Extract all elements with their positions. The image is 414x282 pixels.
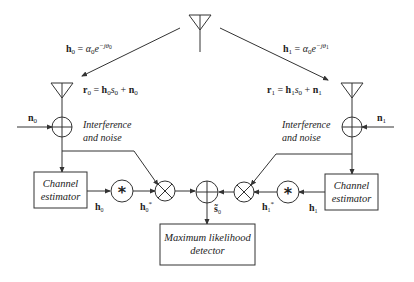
multiplier-left-icon	[155, 181, 175, 201]
channel-estimator-left: Channel estimator	[34, 172, 87, 208]
channel-estimator-right: Channel estimator	[325, 174, 378, 210]
svg-text:Channel: Channel	[43, 178, 79, 189]
svg-text:estimator: estimator	[41, 191, 82, 202]
combined-signal-label: s̃0	[214, 203, 221, 215]
multiplier-right-icon	[234, 182, 254, 202]
ml-detector-box: Maximum likelihood detector	[160, 224, 255, 265]
noise-adder-left-icon	[52, 117, 72, 137]
receive-antenna-right-icon	[341, 83, 363, 117]
conjugate-right-icon: *	[277, 181, 299, 203]
combiner-adder-icon	[196, 181, 218, 203]
diversity-receiver-diagram: h0 = α0e−jθ0 h1 = α0e−jθ1 r0 = h0s0 + n0…	[0, 0, 414, 282]
noise-adder-right-icon	[342, 117, 362, 137]
conjugate-left-icon: *	[111, 180, 133, 202]
channel-path-right	[220, 28, 328, 80]
svg-text:Maximum likelihood: Maximum likelihood	[163, 232, 251, 243]
svg-text:estimator: estimator	[332, 193, 373, 204]
svg-text:*: *	[118, 183, 127, 202]
interference-label-right-line1: Interference	[281, 119, 331, 130]
conjugate-label-h0: h0*	[140, 200, 153, 213]
interference-label-left-line1: Interference	[82, 119, 132, 130]
estimate-label-h0: h0	[95, 201, 104, 213]
interference-label-right-line2: and noise	[282, 132, 321, 143]
estimate-label-h1: h1	[309, 202, 318, 214]
noise-label-n0: n0	[28, 112, 38, 125]
transmit-antenna-icon	[189, 15, 211, 52]
interference-label-left-line2: and noise	[83, 132, 122, 143]
channel-label-h1: h1 = α0e−jθ1	[283, 42, 329, 56]
receive-antenna-left-icon	[51, 83, 73, 117]
svg-text:*: *	[284, 184, 293, 203]
received-signal-r0: r0 = h0s0 + n0	[83, 84, 138, 97]
channel-label-h0: h0 = α0e−jθ0	[66, 42, 112, 56]
noise-label-n1: n1	[377, 112, 387, 125]
received-signal-r1: r1 = h1s0 + n1	[267, 84, 322, 97]
svg-text:Channel: Channel	[334, 180, 370, 191]
svg-text:detector: detector	[190, 245, 225, 256]
conjugate-label-h1: h1*	[262, 200, 275, 213]
